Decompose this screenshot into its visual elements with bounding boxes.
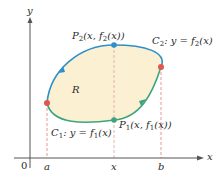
point-a-marker [44, 100, 50, 106]
region-label: R [72, 85, 80, 95]
point-p1-label: P1(x, f1(x)) [119, 120, 172, 132]
region-r [47, 45, 162, 122]
y-axis-arrow-icon [28, 17, 33, 23]
diagram: y x 0 a x b R P2(x, f2(x)) C2: y = f2(x)… [0, 0, 223, 181]
point-p1-marker [111, 117, 117, 123]
tick-a-label: a [44, 162, 50, 172]
tick-b-label: b [158, 162, 164, 172]
point-b-marker [158, 64, 164, 70]
y-axis-label: y [27, 6, 33, 16]
point-p2-label: P2(x, f2(x)) [72, 31, 125, 43]
x-axis-arrow-icon [197, 156, 204, 161]
point-p2-marker [111, 42, 117, 48]
x-axis-label: x [207, 152, 213, 162]
curve-c2-label: C2: y = f2(x) [152, 36, 213, 48]
tick-x-label: x [111, 162, 117, 172]
origin-label: 0 [21, 161, 27, 171]
diagram-canvas [0, 0, 223, 181]
curve-c1-label: C1: y = f1(x) [51, 128, 112, 140]
